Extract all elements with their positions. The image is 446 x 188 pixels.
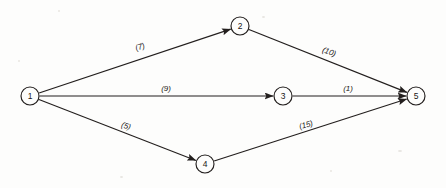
edge-1-to-4 bbox=[39, 99, 196, 160]
node-label-3: 3 bbox=[281, 91, 286, 101]
node-label-2: 2 bbox=[238, 21, 243, 31]
network-diagram-canvas: 12345 (7)(10)(9)(1)(5)(15) bbox=[0, 0, 446, 188]
node-3[interactable]: 3 bbox=[274, 87, 292, 105]
edge-label-1-2: (7) bbox=[134, 41, 146, 53]
edge-2-to-5 bbox=[249, 30, 407, 93]
network-graph: 12345 (7)(10)(9)(1)(5)(15) bbox=[0, 0, 446, 188]
edge-1-to-2 bbox=[39, 29, 231, 93]
edge-label-2-5: (10) bbox=[321, 45, 337, 58]
node-label-5: 5 bbox=[414, 91, 419, 101]
edge-label-3-5: (1) bbox=[343, 84, 353, 93]
edge-label-1-3: (9) bbox=[161, 84, 171, 93]
node-label-4: 4 bbox=[203, 159, 208, 169]
node-4[interactable]: 4 bbox=[196, 155, 214, 173]
edge-label-1-4: (5) bbox=[120, 120, 132, 132]
nodes-layer: 12345 bbox=[21, 17, 425, 173]
node-1[interactable]: 1 bbox=[21, 87, 39, 105]
edges-layer bbox=[39, 29, 407, 161]
node-5[interactable]: 5 bbox=[407, 87, 425, 105]
node-label-1: 1 bbox=[28, 91, 33, 101]
node-2[interactable]: 2 bbox=[231, 17, 249, 35]
edge-4-to-5 bbox=[214, 99, 407, 161]
